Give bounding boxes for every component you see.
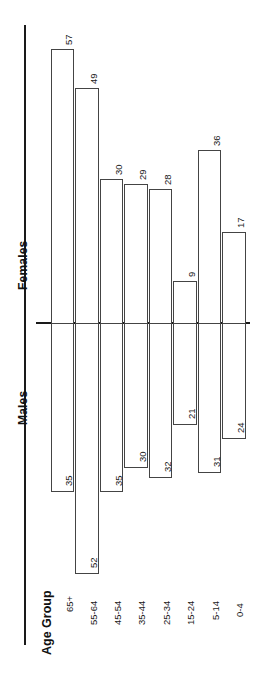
category-label-65plus: 65+ [64, 596, 75, 612]
bar-female-35-44 [124, 184, 148, 324]
category-axis-line [24, 25, 26, 645]
value-label-male-55-64: 52 [88, 557, 99, 568]
bar-female-45-54 [100, 179, 123, 324]
value-label-male-0-4: 24 [235, 422, 246, 433]
bar-male-65plus [51, 323, 74, 492]
value-label-male-5-14: 31 [211, 456, 222, 467]
bar-female-15-24 [173, 281, 197, 324]
value-label-female-0-4: 17 [235, 217, 246, 228]
bar-male-5-14 [198, 323, 221, 473]
axis-title-age-group: Age Group [40, 590, 54, 655]
series-label-males: Males [16, 391, 30, 425]
category-label-45-54: 45-54 [112, 601, 123, 625]
value-label-male-65plus: 35 [63, 475, 74, 486]
category-label-15-24: 15-24 [185, 601, 196, 625]
bar-male-25-34 [149, 323, 172, 478]
value-label-female-35-44: 29 [137, 169, 148, 180]
category-label-55-64: 55-64 [88, 601, 99, 625]
value-label-female-15-24: 9 [186, 272, 197, 277]
category-label-5-14: 5-14 [210, 601, 221, 620]
value-label-female-55-64: 49 [88, 73, 99, 84]
value-label-female-65plus: 57 [63, 34, 74, 45]
bar-female-25-34 [149, 189, 172, 324]
bar-female-0-4 [222, 232, 246, 324]
bar-female-65plus [51, 49, 74, 324]
value-label-male-45-54: 35 [113, 475, 124, 486]
population-pyramid-chart: Females Males Age Group 57 35 65+ 49 52 … [0, 0, 259, 683]
bar-male-55-64 [75, 323, 99, 574]
value-label-female-45-54: 30 [113, 164, 124, 175]
value-label-female-5-14: 36 [211, 135, 222, 146]
category-label-35-44: 35-44 [136, 601, 147, 625]
value-label-male-35-44: 30 [137, 451, 148, 462]
bar-female-5-14 [198, 150, 221, 324]
bar-female-55-64 [75, 88, 99, 324]
value-label-male-25-34: 32 [162, 461, 173, 472]
category-label-0-4: 0-4 [234, 603, 245, 617]
bar-male-35-44 [124, 323, 148, 468]
value-label-male-15-24: 21 [186, 408, 197, 419]
bar-male-45-54 [100, 323, 123, 492]
series-label-females: Females [16, 241, 30, 290]
category-label-25-34: 25-34 [161, 601, 172, 625]
value-label-female-25-34: 28 [162, 174, 173, 185]
